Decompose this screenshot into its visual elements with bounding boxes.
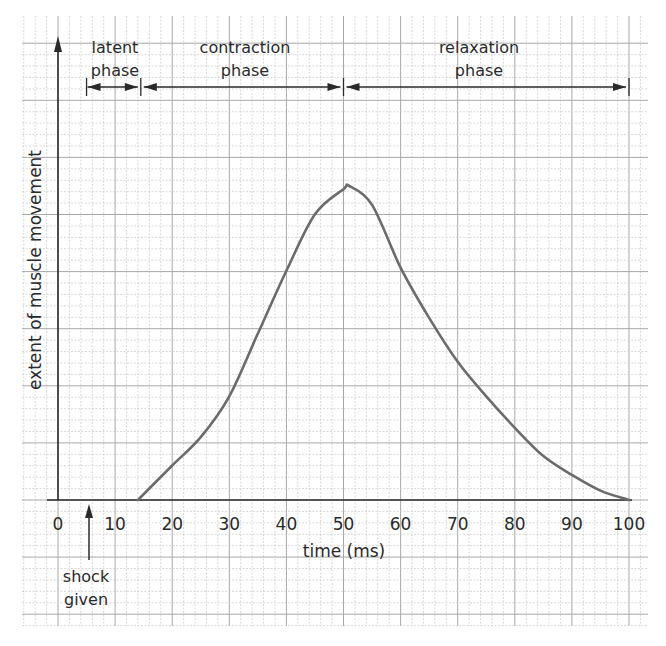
x-axis-label: time (ms) (303, 541, 386, 561)
shock-label-line2: given (64, 590, 108, 609)
x-tick-label: 30 (218, 514, 240, 534)
latent-label-line2: phase (91, 61, 139, 80)
x-tick-label: 90 (561, 514, 583, 534)
y-axis-arrow-icon (54, 36, 62, 52)
latent-label-line1: latent (92, 38, 139, 57)
arrow-left-icon (144, 83, 157, 91)
x-tick-label: 10 (104, 514, 126, 534)
arrow-right-icon (328, 83, 341, 91)
muscle-twitch-chart: 0102030405060708090100 time (ms) extent … (0, 0, 666, 646)
shock-annotation: shock given (63, 504, 110, 609)
relaxation-label-line1: relaxation (439, 38, 519, 57)
x-tick-label: 20 (161, 514, 183, 534)
x-tick-label: 50 (333, 514, 355, 534)
phase-arrows (87, 78, 629, 96)
x-tick-label: 70 (447, 514, 469, 534)
phase-annotations: latent phase contraction phase relaxatio… (87, 38, 629, 96)
arrow-right-icon (125, 83, 138, 91)
arrow-left-icon (347, 83, 360, 91)
x-tick-label: 80 (504, 514, 526, 534)
contraction-label-line2: phase (221, 61, 269, 80)
shock-arrow-icon (85, 504, 93, 518)
arrow-left-icon (88, 83, 101, 91)
y-axis-label: extent of muscle movement (25, 150, 45, 390)
x-tick-labels: 0102030405060708090100 (53, 514, 646, 534)
x-tick-label: 60 (390, 514, 412, 534)
contraction-label-line1: contraction (200, 38, 291, 57)
x-tick-label: 0 (53, 514, 64, 534)
x-tick-label: 40 (276, 514, 298, 534)
axes (47, 36, 632, 500)
arrow-right-icon (613, 83, 626, 91)
shock-label-line1: shock (63, 567, 110, 586)
x-tick-label: 100 (613, 514, 645, 534)
graph-paper-grid (22, 16, 648, 626)
relaxation-label-line2: phase (455, 61, 503, 80)
twitch-curve (138, 185, 629, 500)
